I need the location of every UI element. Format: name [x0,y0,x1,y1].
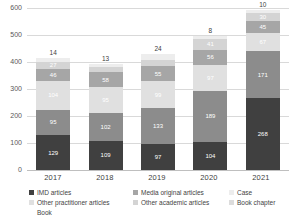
bar-column-2020: 104189975641 [193,36,227,170]
bar-segment-value-label: 99 [155,92,162,98]
bar-segment: 133 [141,108,175,144]
bar-segment-value-label: 95 [50,119,57,125]
legend-label: Case [237,189,252,197]
bar-segment [89,64,123,68]
y-tick-label: 200 [0,112,22,119]
bar-segment: 97 [141,144,175,170]
bar-segment: 46 [36,69,70,81]
y-tick-label: 500 [0,31,22,38]
bar-total-label: 13 [89,55,123,62]
plot-area: 1412995104462713109102955824971339955810… [27,8,289,170]
bar-segment-value-label: 46 [50,72,57,78]
y-tick-label: 100 [0,139,22,146]
bar-segment: 104 [193,142,227,170]
y-tick-label: 0 [0,166,22,173]
legend-item-book-chapter[interactable]: Book chapter [229,199,275,207]
bar-segment-value-label: 133 [153,123,163,129]
bar-segment-value-label: 30 [259,14,266,20]
bar-column-2021: 268171674530 [246,10,280,170]
legend-swatch-icon [133,200,138,205]
bar-segment-value-label: 171 [258,72,268,78]
bar-segment-value-label: 45 [259,24,266,30]
bar-total-label: 14 [36,49,70,56]
y-tick-label: 600 [0,4,22,11]
bar-total-label: 8 [193,27,227,34]
legend-label: IMD articles [37,189,71,197]
legend-label: Book chapter [237,199,275,207]
bar-segment: 67 [246,33,280,51]
bar-total-label: 10 [246,1,280,8]
bar-segment: 30 [246,13,280,21]
bar-segment: 95 [36,110,70,136]
legend-swatch-icon [29,190,34,195]
legend-swatch-icon [229,190,234,195]
bar-segment-value-label: 104 [205,153,215,159]
legend-item-book[interactable]: Book [37,209,52,217]
x-tick-label-2021: 2021 [235,173,287,182]
bar-segment-value-label: 129 [48,150,58,156]
legend-item-other-practitioner-articles[interactable]: Other practitioner articles [29,199,110,207]
bar-segment: 95 [89,87,123,113]
bar-segment-value-label: 97 [155,154,162,160]
bar-segment-value-label: 67 [259,39,266,45]
legend-item-other-academic-articles[interactable]: Other academic articles [133,199,209,207]
bar-column-2019: 971339955 [141,54,175,170]
bar-series-layer: 1412995104462713109102955824971339955810… [27,8,289,170]
x-tick-label-2017: 2017 [27,173,79,182]
x-axis-line [27,170,289,171]
legend-swatch-icon [29,200,34,205]
legend-label: Other academic articles [141,199,209,207]
bar-segment [89,67,123,71]
bar-column-2018: 1091029558 [89,64,123,170]
bar-segment: 56 [193,50,227,65]
bar-segment-value-label: 97 [207,75,214,81]
bar-segment [246,10,280,13]
bar-segment: 97 [193,65,227,91]
bar-segment: 104 [36,81,70,109]
bar-segment-value-label: 268 [258,131,268,137]
bar-segment: 99 [141,81,175,108]
legend-item-media-original-articles[interactable]: Media original articles [133,189,204,197]
bar-segment [36,58,70,62]
bar-segment [141,60,175,66]
bar-segment-value-label: 95 [102,97,109,103]
bar-segment-value-label: 55 [155,71,162,77]
legend-swatch-icon [133,190,138,195]
bar-segment: 45 [246,21,280,33]
y-tick-label: 300 [0,85,22,92]
legend-item-case[interactable]: Case [229,189,252,197]
legend-item-imd-articles[interactable]: IMD articles [29,189,71,197]
bar-segment [141,54,175,60]
bar-segment-value-label: 102 [101,124,111,130]
bar-segment: 268 [246,98,280,170]
legend-swatch-icon [229,200,234,205]
bar-segment: 58 [89,72,123,88]
bar-segment-value-label: 56 [207,54,214,60]
bar-segment-value-label: 27 [50,62,57,68]
bar-segment [193,36,227,38]
bar-segment-value-label: 189 [205,113,215,119]
x-tick-label-2020: 2020 [183,173,235,182]
bar-segment: 41 [193,39,227,50]
chart-legend: IMD articles Other practitioner articles… [29,189,297,219]
bar-segment: 171 [246,51,280,97]
bar-segment: 27 [36,62,70,69]
bar-segment-value-label: 109 [101,152,111,158]
legend-label: Book [37,209,52,217]
bar-segment: 129 [36,135,70,170]
bar-segment: 109 [89,141,123,170]
x-tick-label-2018: 2018 [79,173,131,182]
bar-total-label: 24 [141,45,175,52]
bar-segment: 55 [141,66,175,81]
legend-label: Other practitioner articles [37,199,110,207]
stacked-bar-chart: 600 500 400 300 200 100 0 14129951044627… [0,0,306,222]
bar-segment: 102 [89,113,123,141]
bar-segment: 189 [193,91,227,142]
bar-segment-value-label: 104 [48,92,58,98]
bar-segment-value-label: 41 [207,41,214,47]
y-tick-label: 400 [0,58,22,65]
x-tick-label-2019: 2019 [131,173,183,182]
bar-column-2017: 129951044627 [36,58,70,170]
bar-segment-value-label: 58 [102,77,109,83]
legend-label: Media original articles [141,189,204,197]
